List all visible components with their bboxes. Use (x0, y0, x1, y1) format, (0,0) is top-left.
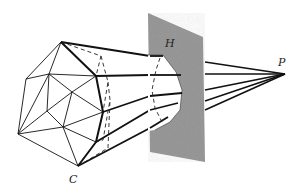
polyhedron-label: C (69, 173, 78, 186)
cone-lines-front (205, 62, 285, 110)
projection-diagram: H P C (0, 0, 301, 192)
polyhedron-c (18, 42, 103, 166)
plane-h (148, 13, 205, 162)
cone-lines-back (61, 42, 150, 166)
plane-label: H (164, 37, 175, 50)
point-label: P (277, 56, 286, 69)
